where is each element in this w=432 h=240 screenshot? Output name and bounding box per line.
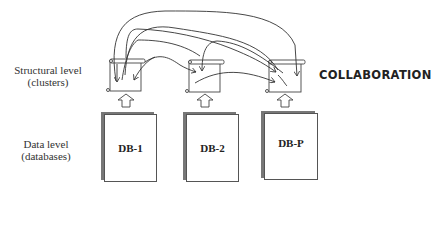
database-label: DB-1 (105, 142, 156, 154)
database-label: DB-2 (187, 142, 238, 154)
scroll-icon (186, 60, 225, 93)
scroll-icon (266, 60, 306, 93)
database-box-db-p: DB-P (264, 113, 318, 180)
database-label: DB-P (265, 137, 317, 149)
up-arrow-icon (197, 94, 213, 107)
database-box-db-1: DB-1 (104, 114, 157, 182)
database-box-db-2: DB-2 (186, 114, 239, 182)
up-arrow-icon (277, 94, 293, 107)
up-arrow-icon (118, 94, 134, 107)
